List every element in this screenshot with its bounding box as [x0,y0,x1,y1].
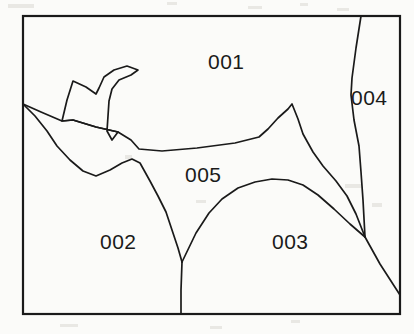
region-label-005: 005 [185,164,222,185]
region-001-spur-zigzag [62,66,138,140]
region-label-004: 004 [351,87,388,108]
figure-canvas: 001 002 003 004 005 [0,0,414,334]
region-004-boundary [351,16,365,237]
region-label-002: 002 [100,231,137,252]
region-label-003: 003 [272,231,309,252]
region-label-001: 001 [208,51,245,72]
region-003-004-boundary [365,237,400,295]
region-002-003-boundary [181,262,182,314]
